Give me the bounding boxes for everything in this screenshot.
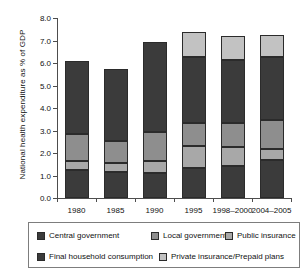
y-axis-tick-mark	[53, 131, 57, 132]
legend-swatch-icon	[37, 253, 45, 261]
x-axis-tick-mark	[174, 198, 175, 202]
legend-item[interactable]: Private insurance/Prepaid plans	[159, 252, 284, 261]
bar-2004-2005	[260, 35, 284, 198]
y-axis-tick-mark	[53, 63, 57, 64]
bar-1995	[182, 32, 206, 199]
bar-segment	[182, 32, 206, 58]
bar-segment	[260, 35, 284, 58]
legend-swatch-icon	[225, 232, 233, 240]
x-axis-tick-mark	[213, 198, 214, 202]
legend-label: Central government	[49, 231, 119, 240]
legend-item[interactable]: Final household consumption	[37, 252, 153, 261]
bar-segment	[260, 120, 284, 149]
legend-item[interactable]: Central government	[37, 231, 119, 240]
y-axis-line	[57, 18, 58, 198]
y-axis-tick-mark	[53, 176, 57, 177]
bar-segment	[104, 163, 128, 172]
bar-1985	[104, 69, 128, 198]
bar-segment	[143, 161, 167, 173]
y-axis-tick-mark	[53, 108, 57, 109]
bar-segment	[65, 161, 89, 170]
bar-segment	[221, 147, 245, 166]
legend-row: Central governmentLocal governmentPublic…	[29, 225, 299, 246]
bar-segment	[182, 57, 206, 122]
bar-segment	[65, 61, 89, 134]
chart-figure: National health expenditure as % of GDP …	[0, 0, 307, 275]
bar-segment	[143, 42, 167, 131]
legend-swatch-icon	[37, 232, 45, 240]
bar-1990	[143, 42, 167, 198]
y-axis-tick-mark	[53, 86, 57, 87]
bar-segment	[260, 57, 284, 119]
bar-segment	[65, 170, 89, 198]
x-axis-tick-label: 1995	[185, 206, 203, 215]
x-axis-tick-mark	[96, 198, 97, 202]
bar-segment	[221, 123, 245, 147]
chart-legend: Central governmentLocal governmentPublic…	[28, 222, 300, 268]
y-axis-tick-mark	[53, 18, 57, 19]
x-axis-tick-label: 1998–2000	[212, 206, 252, 215]
x-axis-tick-label: 1990	[146, 206, 164, 215]
y-axis-tick-mark	[53, 153, 57, 154]
bar-segment	[260, 149, 284, 161]
x-axis-tick-mark	[135, 198, 136, 202]
bar-segment	[182, 146, 206, 167]
bar-segment	[221, 60, 245, 123]
x-axis-tick-mark	[252, 198, 253, 202]
bar-segment	[182, 168, 206, 198]
bar-segment	[104, 172, 128, 198]
bar-segment	[260, 160, 284, 198]
legend-label: Public insurance	[237, 231, 296, 240]
bar-1980	[65, 61, 89, 198]
y-axis-tick-mark	[53, 41, 57, 42]
y-axis-title: National health expenditure as % of GDP	[18, 15, 27, 195]
plot-area: 0.01.02.03.04.05.06.07.08.0 198019851990…	[57, 18, 291, 198]
legend-swatch-icon	[159, 253, 167, 261]
legend-label: Private insurance/Prepaid plans	[171, 252, 284, 261]
bar-segment	[65, 134, 89, 161]
x-axis-tick-label: 1985	[107, 206, 125, 215]
bar-segment	[143, 173, 167, 198]
legend-label: Final household consumption	[49, 252, 153, 261]
bar-segment	[143, 132, 167, 161]
bar-segment	[104, 69, 128, 141]
bar-segment	[104, 141, 128, 162]
legend-item[interactable]: Public insurance	[225, 231, 296, 240]
legend-row: Final household consumptionPrivate insur…	[29, 246, 299, 267]
bar-segment	[221, 166, 245, 198]
bar-1998-2000	[221, 36, 245, 198]
legend-swatch-icon	[151, 232, 159, 240]
x-axis-tick-mark	[57, 198, 58, 202]
x-axis-tick-label: 1980	[68, 206, 86, 215]
x-axis-tick-mark	[291, 198, 292, 202]
legend-label: Local government	[163, 231, 227, 240]
bar-segment	[221, 36, 245, 61]
legend-item[interactable]: Local government	[151, 231, 227, 240]
x-axis-tick-label: 2004–2005	[251, 206, 291, 215]
bar-segment	[182, 123, 206, 147]
